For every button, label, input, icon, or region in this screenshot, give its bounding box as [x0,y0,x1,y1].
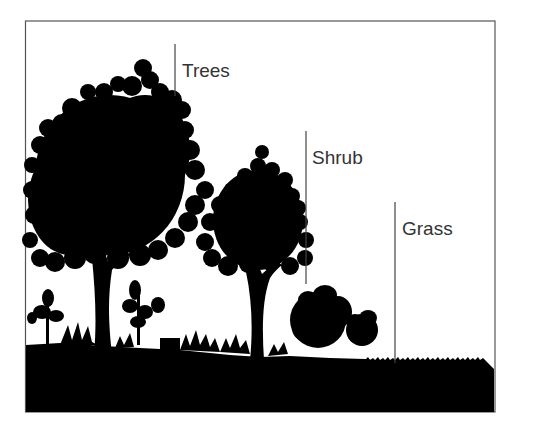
trees-label: Trees [182,60,230,81]
vegetation-layers-diagram: Trees Shrub Grass [0,0,552,441]
grass-label: Grass [402,218,453,239]
shrub-label: Shrub [312,147,363,168]
grass-fringe [365,357,494,380]
